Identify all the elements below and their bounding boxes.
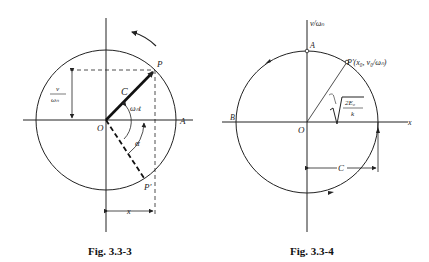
label-alpha: α (135, 138, 140, 148)
label-A: A (309, 41, 315, 50)
label-P-prime: P' (143, 182, 152, 192)
label-x-axis: x (407, 118, 412, 127)
caption-fig-3-3-3: Fig. 3.3-3 (88, 245, 132, 257)
label-radius-numerator: 2E₀ (345, 99, 356, 107)
caption-fig-3-3-4: Fig. 3.3-4 (290, 245, 334, 257)
label-C: C (121, 86, 128, 97)
radius-line (307, 62, 347, 122)
label-x: x (126, 207, 131, 216)
label-omega-t: ωₙt (130, 104, 142, 113)
label-O: O (97, 123, 104, 133)
label-v-numerator: v (56, 85, 60, 93)
label-O: O (298, 125, 305, 135)
label-B: B (230, 113, 235, 122)
point-A-marker (305, 49, 309, 53)
figure-3-3-4: 2E₀ k v/ωₙ x A B O P'(x₀, v₀/ωₙ) C Fig. … (222, 19, 412, 257)
label-radius-denominator: k (351, 110, 355, 118)
leader-squiggle (329, 94, 336, 104)
label-y-axis: v/ωₙ (310, 19, 325, 28)
label-A: A (179, 116, 186, 126)
label-C: C (338, 163, 345, 173)
label-P-prime: P'(x₀, v₀/ωₙ) (346, 58, 387, 67)
dashed-vector-P-prime (106, 120, 144, 178)
label-v-denominator: ωₙ (51, 96, 59, 104)
diagram-canvas: P P' O A C ωₙt α x v ωₙ Fig. 3.3-3 2E₀ k (0, 0, 429, 262)
label-P: P (156, 59, 163, 69)
direction-arrow-icon (328, 191, 334, 195)
figure-3-3-3: P P' O A C ωₙt α x v ωₙ Fig. 3.3-3 (23, 18, 193, 257)
rotation-arrow-icon (132, 32, 156, 46)
